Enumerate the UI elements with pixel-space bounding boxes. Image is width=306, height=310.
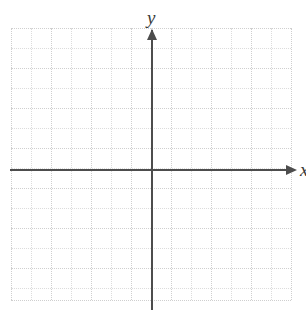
- gridline-vertical: [291, 28, 292, 300]
- dotted-grid: [0, 0, 306, 310]
- x-axis-arrow-icon: [286, 165, 297, 175]
- y-axis-arrow-icon: [147, 29, 157, 40]
- y-axis-line: [151, 30, 153, 310]
- y-axis-label: y: [147, 8, 155, 27]
- coordinate-plane-figure: x y: [0, 0, 306, 310]
- x-axis-line: [10, 169, 288, 171]
- x-axis-label: x: [300, 160, 306, 179]
